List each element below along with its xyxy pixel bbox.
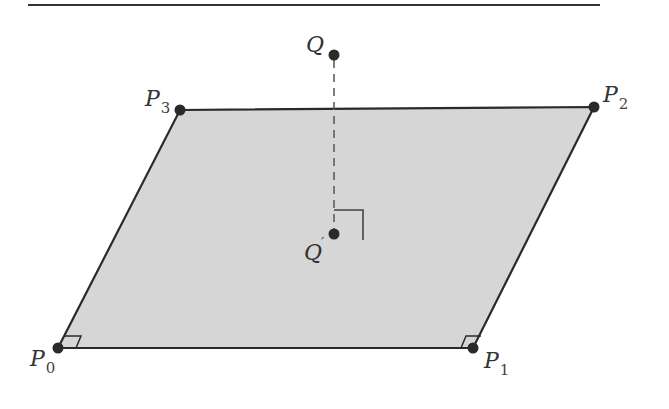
point-p3: [175, 105, 186, 116]
point-q: [329, 50, 340, 61]
label-q: Q: [306, 32, 324, 57]
point-q-prime: [329, 229, 340, 240]
projection-diagram: P0 P1 P2 P3 Q Q′: [0, 0, 669, 409]
point-p1: [468, 343, 479, 354]
parallelogram-plane: [58, 107, 594, 348]
label-p2: P2: [602, 82, 628, 113]
point-p0: [53, 343, 64, 354]
label-p1: P1: [483, 348, 509, 379]
label-p0: P0: [29, 346, 55, 377]
label-p3: P3: [144, 86, 170, 117]
point-p2: [589, 102, 600, 113]
